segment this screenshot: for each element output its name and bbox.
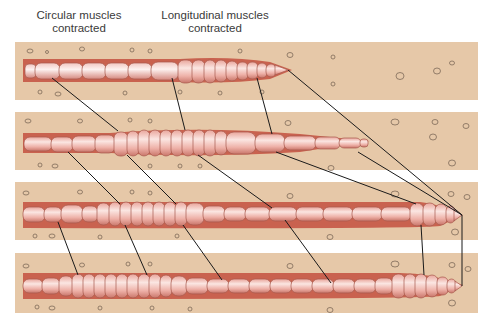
soil-panels: [15, 42, 478, 313]
earthworm-locomotion-diagram: [0, 0, 492, 328]
